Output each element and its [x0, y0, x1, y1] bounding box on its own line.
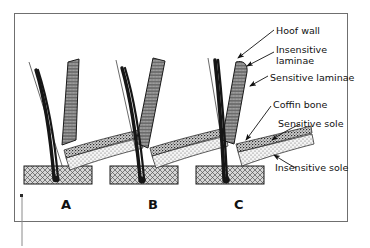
leader-coffin-bone [246, 106, 271, 140]
registration-dot [20, 194, 23, 197]
panel-letter-b: B [148, 197, 158, 212]
panel-letter-a: A [61, 197, 72, 212]
label-hoof-wall: Hoof wall [276, 26, 320, 37]
label-insensitive-laminae: Insensitive laminae [276, 45, 327, 66]
label-sensitive-laminae: Sensitive laminae [270, 73, 354, 84]
label-sensitive-sole: Sensitive sole [278, 119, 344, 130]
panel-b-artwork [110, 58, 228, 184]
leader-sensitive-laminae [250, 76, 268, 86]
panel-letter-c: C [234, 197, 244, 212]
label-coffin-bone: Coffin bone [273, 100, 327, 111]
leader-insensitive-laminae [247, 52, 274, 66]
label-insensitive-sole: Insensitive sole [275, 163, 348, 174]
figure-canvas: A B C Hoof wall Insensitive laminae Sens… [0, 0, 370, 248]
leader-hoof-wall [238, 30, 274, 58]
